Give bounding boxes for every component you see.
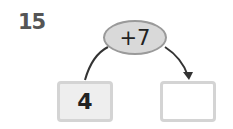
operation-label: +7 xyxy=(120,26,151,50)
input-value: 4 xyxy=(77,89,92,114)
left-connector-line xyxy=(85,47,108,80)
right-arrow-line xyxy=(165,47,188,76)
answer-box[interactable] xyxy=(160,81,216,122)
input-box: 4 xyxy=(57,81,113,122)
arrow-head-icon xyxy=(183,72,193,80)
operation-oval: +7 xyxy=(103,20,167,55)
